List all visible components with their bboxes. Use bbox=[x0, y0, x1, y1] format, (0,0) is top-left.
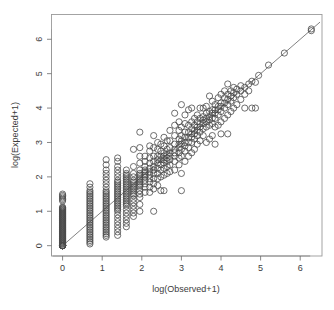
y-tick-label: 1 bbox=[34, 209, 44, 214]
x-axis-title: log(Observed+1) bbox=[152, 284, 219, 294]
y-tick-label: 6 bbox=[34, 37, 44, 42]
x-tick-label: 1 bbox=[100, 263, 105, 273]
x-tick-label: 0 bbox=[60, 263, 65, 273]
scatter-plot-figure: 0123456 0123456 log(Observed+1) log(Expe… bbox=[0, 0, 334, 310]
x-tick-label: 5 bbox=[258, 263, 263, 273]
x-tick-label: 6 bbox=[298, 263, 303, 273]
y-tick-label: 5 bbox=[34, 71, 44, 76]
y-tick-label: 0 bbox=[34, 243, 44, 248]
x-tick-label: 2 bbox=[139, 263, 144, 273]
y-tick-label: 4 bbox=[34, 106, 44, 111]
x-tick-label: 3 bbox=[179, 263, 184, 273]
y-axis-title: log(Expected+1) bbox=[10, 102, 20, 168]
plot-canvas: 0123456 0123456 log(Observed+1) log(Expe… bbox=[0, 0, 334, 310]
x-tick-label: 4 bbox=[219, 263, 224, 273]
y-tick-label: 3 bbox=[34, 140, 44, 145]
y-tick-label: 2 bbox=[34, 174, 44, 179]
